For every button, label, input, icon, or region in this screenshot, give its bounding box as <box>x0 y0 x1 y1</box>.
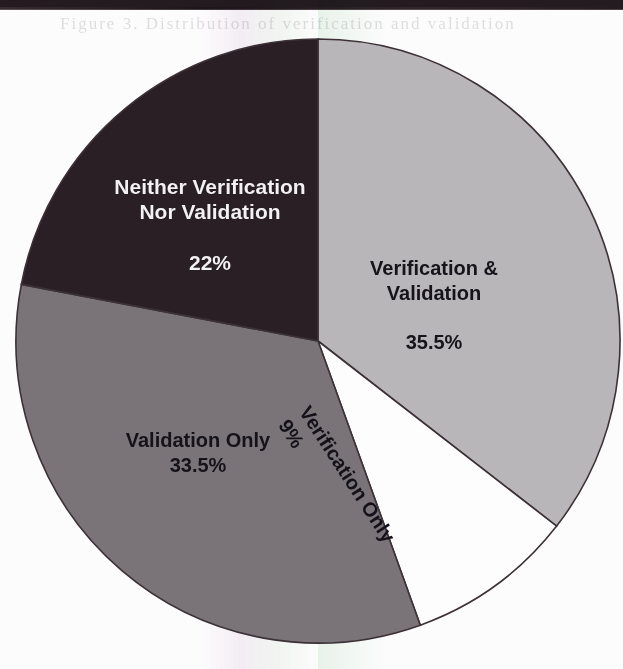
pie-chart-page: Figure 3. Distribution of verification a… <box>0 0 623 669</box>
pie-slice-group <box>16 39 620 643</box>
pie-chart <box>0 0 623 669</box>
pie-chart-svg <box>0 0 623 669</box>
